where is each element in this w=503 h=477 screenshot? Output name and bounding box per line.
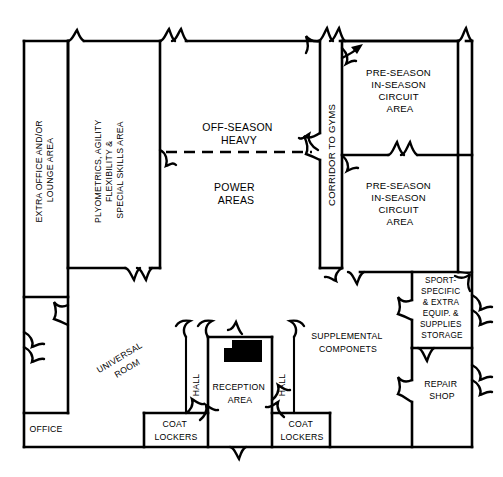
room-label-office: OFFICE xyxy=(29,424,62,434)
room-label-corridor: CORRIDOR TO GYMS xyxy=(326,104,337,206)
break-mark-icon xyxy=(472,295,492,310)
break-mark-icon xyxy=(418,348,434,361)
break-mark-icon xyxy=(230,447,246,459)
break-mark-icon xyxy=(24,347,44,362)
room-off-season-power: OFF-SEASON HEAVY POWER AREAS xyxy=(160,121,318,206)
break-mark-icon xyxy=(401,142,417,155)
room-label-repair-shop: REPAIR SHOP xyxy=(424,379,460,401)
room-label-extra-office: EXTRA OFFICE AND/OR LOUNGE AREA xyxy=(34,118,55,223)
break-mark-icon xyxy=(137,268,152,280)
break-mark-icon xyxy=(68,30,84,41)
break-mark-icon xyxy=(54,302,68,325)
break-mark-icon xyxy=(330,28,345,41)
room-label-off-season: OFF-SEASON HEAVY xyxy=(202,121,275,146)
break-mark-icon xyxy=(325,268,342,281)
break-mark-icon xyxy=(172,29,187,41)
room-label-coat-lockers-right: COAT LOCKERS xyxy=(281,419,324,442)
room-sport-specific-storage: SPORT- SPECIFIC & EXTRA EQUIP. & SUPPLIE… xyxy=(398,272,492,348)
room-label-plyometrics: PLYOMETRICS, AGILITY FLEXIBILITY & SPECI… xyxy=(93,117,125,223)
room-hall-left: HALL xyxy=(176,321,218,420)
room-label-power-areas: POWER AREAS xyxy=(214,181,258,206)
break-mark-icon xyxy=(306,36,320,53)
floor-plan-diagram: EXTRA OFFICE AND/OR LOUNGE AREA PLYOMETR… xyxy=(0,0,503,477)
room-label-hall-right: HALL xyxy=(277,374,287,397)
room-label-supplemental: SUPPLEMENTAL COMPONETS xyxy=(311,331,385,354)
break-mark-icon xyxy=(458,272,472,273)
room-circuit-upper: PRE-SEASON IN-SEASON CIRCUIT AREA xyxy=(342,41,472,155)
break-mark-icon xyxy=(398,377,412,402)
room-label-sport-storage: SPORT- SPECIFIC & EXTRA EQUIP. & SUPPLIE… xyxy=(420,276,464,340)
room-label-coat-lockers-left: COAT LOCKERS xyxy=(155,419,198,442)
break-mark-icon xyxy=(458,28,472,41)
break-mark-icon xyxy=(472,380,492,395)
room-extra-office-lounge: EXTRA OFFICE AND/OR LOUNGE AREA xyxy=(24,41,68,297)
break-mark-icon xyxy=(472,365,492,380)
room-label-hall-left: HALL xyxy=(191,374,201,397)
break-mark-icon xyxy=(398,297,412,320)
break-mark-icon xyxy=(266,402,284,417)
room-office: OFFICE xyxy=(24,413,68,434)
break-mark-icon xyxy=(348,272,364,284)
reception-desk-icon xyxy=(224,340,262,362)
wall-break-marks-top xyxy=(68,28,472,41)
room-label-circuit-lower: PRE-SEASON IN-SEASON CIRCUIT AREA xyxy=(366,180,434,227)
break-mark-icon xyxy=(318,28,333,41)
room-label-reception: RECEPTION AREA xyxy=(212,382,267,405)
area-universal-room: UNIVERSAL ROOM xyxy=(24,297,153,413)
room-coat-lockers-left: COAT LOCKERS xyxy=(144,413,208,447)
corridor-to-gyms: CORRIDOR TO GYMS xyxy=(304,36,342,268)
room-reception-area: RECEPTION AREA xyxy=(198,321,272,459)
break-mark-icon xyxy=(198,321,212,337)
floor-plan-svg: EXTRA OFFICE AND/OR LOUNGE AREA PLYOMETR… xyxy=(0,0,503,477)
break-mark-icon xyxy=(228,322,242,334)
break-mark-icon xyxy=(125,268,140,280)
room-plyometrics: PLYOMETRICS, AGILITY FLEXIBILITY & SPECI… xyxy=(68,41,160,280)
area-supplemental-components: SUPPLEMENTAL COMPONETS xyxy=(311,331,385,354)
break-mark-icon xyxy=(176,321,190,337)
room-circuit-lower: PRE-SEASON IN-SEASON CIRCUIT AREA xyxy=(325,155,458,284)
corridor-entry-arrow-icon xyxy=(342,44,363,64)
room-label-circuit-upper: PRE-SEASON IN-SEASON CIRCUIT AREA xyxy=(366,67,434,114)
room-repair-shop: REPAIR SHOP xyxy=(398,348,492,447)
break-mark-icon xyxy=(472,310,492,325)
room-coat-lockers-right: COAT LOCKERS xyxy=(272,413,330,447)
room-label-universal-room: UNIVERSAL ROOM xyxy=(95,339,153,386)
break-mark-icon xyxy=(160,29,175,41)
break-mark-icon xyxy=(24,332,44,347)
break-mark-icon xyxy=(186,399,204,413)
break-mark-icon xyxy=(342,155,358,171)
break-mark-icon xyxy=(290,321,304,337)
break-mark-icon xyxy=(388,142,404,155)
